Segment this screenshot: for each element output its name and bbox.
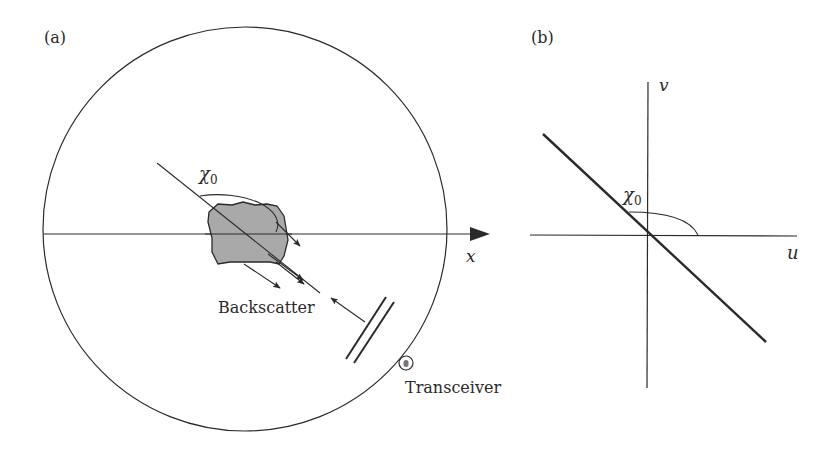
u-axis-label: u bbox=[787, 242, 799, 263]
incident-wave-arrow bbox=[331, 298, 365, 322]
scattering-target bbox=[208, 202, 288, 264]
transceiver-icon bbox=[399, 356, 413, 370]
projection-line bbox=[543, 134, 766, 342]
diagram-canvas: (a) x χ0 Backscatter Transcei bbox=[0, 0, 831, 451]
backscatter-label: Backscatter bbox=[218, 298, 315, 317]
panel-a-label: (a) bbox=[44, 28, 66, 47]
incidence-line bbox=[157, 163, 320, 293]
v-axis-label: v bbox=[659, 75, 669, 95]
u-axis bbox=[530, 235, 797, 236]
x-axis-arrowhead-icon bbox=[470, 227, 490, 241]
chi0-label-a: χ0 bbox=[197, 163, 218, 187]
chi0-label-b: χ0 bbox=[621, 184, 642, 208]
scatter-arrow-4 bbox=[276, 262, 304, 284]
panel-b: (b) v u χ0 bbox=[530, 28, 799, 388]
scatter-arrow-3 bbox=[268, 254, 303, 280]
x-axis-label: x bbox=[466, 246, 476, 266]
panel-a: (a) x χ0 Backscatter Transcei bbox=[43, 27, 501, 431]
wavefront-line-2 bbox=[354, 302, 394, 363]
transceiver-label: Transceiver bbox=[405, 378, 501, 397]
panel-b-label: (b) bbox=[531, 28, 554, 47]
wavefront-line-1 bbox=[346, 297, 386, 359]
scatter-arrow-2 bbox=[244, 264, 280, 288]
